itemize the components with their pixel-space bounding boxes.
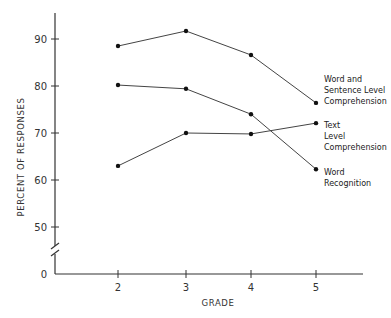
- series-line: [118, 31, 316, 103]
- data-point: [249, 53, 253, 57]
- series-label: Level: [324, 132, 345, 141]
- series-label: Recognition: [324, 179, 371, 188]
- data-point: [249, 132, 253, 136]
- y-tick-label: 80: [34, 81, 47, 92]
- data-point: [314, 167, 318, 171]
- series-label: Word and: [324, 75, 362, 84]
- data-point: [116, 164, 120, 168]
- y-tick-label: 0: [41, 269, 47, 280]
- data-point: [314, 121, 318, 125]
- data-point: [249, 112, 253, 116]
- axes: [51, 13, 363, 274]
- data-point: [314, 101, 318, 105]
- x-tick-label: 4: [248, 282, 254, 293]
- data-point: [116, 83, 120, 87]
- x-axis-title: GRADE: [202, 298, 235, 308]
- line-chart: 05060708090 2345 GRADE PERCENT OF RESPON…: [0, 0, 391, 318]
- series-label: Word: [324, 168, 345, 177]
- data-point: [116, 44, 120, 48]
- data-point: [184, 29, 188, 33]
- series-label: Text: [323, 121, 340, 130]
- y-tick-label: 70: [34, 128, 47, 139]
- y-axis-title: PERCENT OF RESPONSES: [16, 98, 26, 217]
- series-group: Word andSentence LevelComprehensionTextL…: [116, 29, 387, 188]
- x-tick-label: 3: [183, 282, 189, 293]
- series-label: Comprehension: [324, 97, 387, 106]
- data-point: [184, 131, 188, 135]
- data-point: [184, 87, 188, 91]
- series-label: Comprehension: [324, 143, 387, 152]
- x-tick-label: 5: [313, 282, 319, 293]
- y-tick-label: 50: [34, 222, 47, 233]
- series-label: Sentence Level: [324, 86, 385, 95]
- series-word-and-sentence-level-comprehension: Word andSentence LevelComprehension: [116, 29, 387, 106]
- x-tick-label: 2: [115, 282, 121, 293]
- y-tick-label: 90: [34, 34, 47, 45]
- series-line: [118, 85, 316, 169]
- series-text-level-comprehension: TextLevelComprehension: [116, 121, 387, 168]
- y-tick-label: 60: [34, 175, 47, 186]
